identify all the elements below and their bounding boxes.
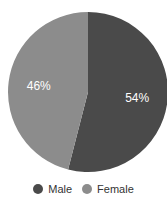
legend: Male Female [0, 183, 167, 195]
female-swatch-icon [82, 184, 92, 194]
male-swatch-icon [33, 184, 43, 194]
pie-label-male: 54% [125, 91, 149, 105]
pie-chart: 54%46% [0, 0, 167, 180]
legend-item-male: Male [33, 183, 72, 195]
legend-item-female: Female [82, 183, 134, 195]
legend-label-female: Female [97, 183, 134, 195]
pie-label-female: 46% [27, 79, 51, 93]
legend-label-male: Male [48, 183, 72, 195]
